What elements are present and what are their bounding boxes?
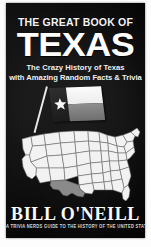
texas-flag-icon xyxy=(49,86,105,122)
flag-red-stripe xyxy=(68,103,105,121)
book-cover: THE GREAT BOOK OF TEXAS The Crazy Histor… xyxy=(6,3,145,238)
author-name: BILL O'NEILL xyxy=(6,204,145,225)
title-block: THE GREAT BOOK OF TEXAS The Crazy Histor… xyxy=(6,16,145,82)
flag-fly-section xyxy=(66,86,105,121)
united-states-map-illustration xyxy=(9,120,142,204)
flag-white-stripe xyxy=(66,86,103,104)
cover-title: TEXAS xyxy=(6,29,145,59)
series-tagline: A TRIVIA NERDS GUIDE TO THE HISTORY OF T… xyxy=(6,223,145,229)
cover-subtitle: The Crazy History of Texas with Amazing … xyxy=(6,63,145,82)
cover-subtitle-line-2: with Amazing Random Facts & Trivia xyxy=(6,73,145,83)
cover-subtitle-line-1: The Crazy History of Texas xyxy=(6,63,145,73)
book-cover-photo: THE GREAT BOOK OF TEXAS The Crazy Histor… xyxy=(0,0,151,247)
